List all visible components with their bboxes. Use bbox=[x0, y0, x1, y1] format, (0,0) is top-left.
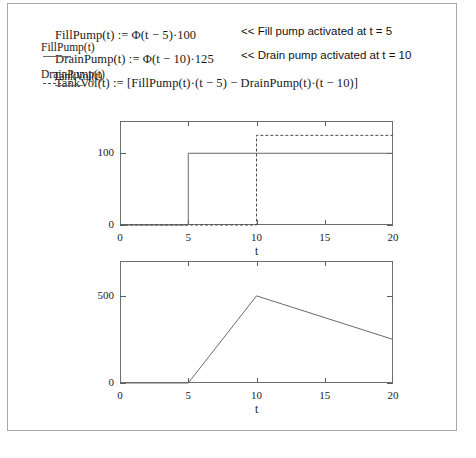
series-line bbox=[120, 296, 393, 383]
page-root: FillPump(t) := Φ(t − 5)·100 DrainPump(t)… bbox=[0, 0, 476, 458]
document-frame: FillPump(t) := Φ(t − 5)·100 DrainPump(t)… bbox=[7, 3, 457, 431]
series-layer bbox=[8, 4, 458, 434]
legend-label: TankVol(t) bbox=[53, 70, 102, 82]
legend-solid-swatch bbox=[55, 85, 83, 86]
tankvol-chart: 051015200500tTankVol(t) bbox=[8, 4, 458, 434]
